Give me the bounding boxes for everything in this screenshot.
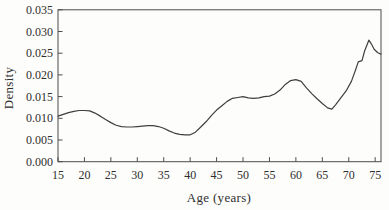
x-tick-label: 60	[290, 168, 302, 182]
x-tick-label: 55	[263, 168, 275, 182]
x-tick-label: 25	[105, 168, 117, 182]
density-vs-age-figure: Density 0.0000.0050.0100.0150.0200.0250.…	[0, 0, 389, 210]
x-tick-label: 45	[211, 168, 223, 182]
y-tick-label: 0.005	[26, 133, 53, 147]
x-tick-label: 40	[184, 168, 196, 182]
x-tick-label: 75	[369, 168, 381, 182]
x-tick-label: 70	[343, 168, 355, 182]
x-tick-label: 65	[316, 168, 328, 182]
x-axis-title: Age (years)	[187, 190, 251, 206]
plot-area: 0.0000.0050.0100.0150.0200.0250.0300.035…	[0, 0, 389, 210]
y-tick-label: 0.010	[26, 111, 53, 125]
x-tick-label: 30	[131, 168, 143, 182]
y-tick-label: 0.030	[26, 25, 53, 39]
y-tick-label: 0.020	[26, 68, 53, 82]
x-tick-label: 50	[237, 168, 249, 182]
y-tick-label: 0.015	[26, 90, 53, 104]
y-tick-label: 0.000	[26, 155, 53, 169]
x-tick-label: 20	[78, 168, 90, 182]
plot-frame	[58, 10, 381, 162]
x-tick-label: 35	[158, 168, 170, 182]
y-tick-label: 0.025	[26, 46, 53, 60]
x-tick-label: 15	[52, 168, 64, 182]
y-tick-label: 0.035	[26, 3, 53, 17]
density-curve	[58, 40, 381, 135]
